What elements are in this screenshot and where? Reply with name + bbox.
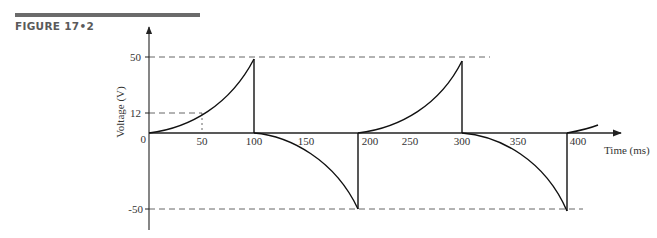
x-tick-150: 150 <box>298 135 315 147</box>
x-tick-100: 100 <box>246 135 263 147</box>
y-tick-50: 50 <box>130 51 142 63</box>
x-tick-200: 200 <box>362 135 379 147</box>
x-tick-300: 300 <box>454 135 471 147</box>
x-tick-250: 250 <box>402 135 419 147</box>
x-tick-400: 400 <box>570 135 587 147</box>
y-tick-12: 12 <box>130 107 141 119</box>
x-tick-350: 350 <box>510 135 527 147</box>
y-tick-0: 0 <box>141 133 147 145</box>
x-tick-50: 50 <box>197 135 209 147</box>
y-axis-label: Voltage (V) <box>114 86 127 138</box>
voltage-chart: 50 12 0 -50 50 100 150 200 250 300 350 4… <box>0 0 657 238</box>
y-tick-neg50: -50 <box>128 203 143 215</box>
x-axis-label: Time (ms) <box>604 144 650 157</box>
